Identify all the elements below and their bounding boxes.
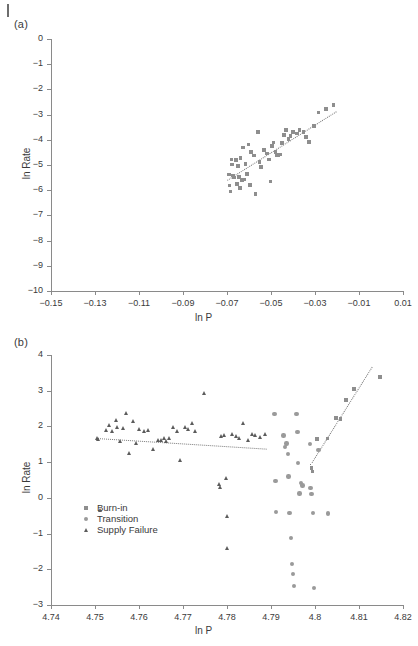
data-point-square — [315, 437, 319, 441]
y-tick-label: −2 — [11, 83, 43, 93]
data-point-triangle — [107, 423, 111, 427]
data-point-triangle — [258, 435, 262, 439]
data-point-circle — [284, 441, 288, 445]
data-point-square — [304, 135, 308, 139]
y-tick-label: −2 — [11, 563, 43, 573]
y-tick-undefined — [47, 64, 51, 65]
legend-marker-square-icon — [84, 506, 88, 510]
data-point-square — [334, 416, 338, 420]
data-point-triangle — [110, 429, 114, 433]
x-tick-label: −0.01 — [337, 298, 381, 308]
data-point-triangle — [146, 428, 150, 432]
legend-label: Transition — [97, 513, 138, 524]
x-tick — [227, 605, 228, 609]
y-tick-undefined — [47, 89, 51, 90]
data-point-square — [311, 470, 315, 474]
data-point-square — [302, 130, 306, 134]
data-point-square — [230, 163, 234, 167]
data-point-square — [230, 158, 234, 162]
plot-area-a — [51, 39, 403, 291]
data-point-square — [258, 160, 262, 164]
data-point-square — [332, 103, 336, 107]
data-point-square — [278, 153, 282, 157]
data-point-square — [241, 146, 245, 150]
data-point-square — [267, 158, 271, 162]
panel-b: (b) ln Rate ln P Burn-inTransitionSupply… — [0, 330, 418, 646]
data-point-square — [317, 111, 321, 115]
y-tick-undefined — [47, 569, 51, 570]
y-tick-undefined — [47, 426, 51, 427]
data-point-triangle — [104, 428, 108, 432]
data-point-triangle — [218, 485, 222, 489]
x-axis-title-b: ln P — [195, 625, 212, 636]
data-point-triangle — [186, 427, 190, 431]
data-point-square — [280, 141, 284, 145]
data-point-square — [282, 133, 286, 137]
x-tick — [227, 291, 228, 295]
data-point-square — [238, 186, 242, 190]
data-point-square — [232, 176, 236, 180]
data-point-square — [236, 164, 240, 168]
data-point-triangle — [121, 426, 125, 430]
x-axis-title-a: ln P — [195, 312, 212, 323]
y-tick-undefined — [47, 241, 51, 242]
y-tick-undefined — [47, 39, 51, 40]
data-point-triangle — [202, 391, 206, 395]
y-tick-label: 0 — [11, 492, 43, 502]
data-point-triangle — [167, 436, 171, 440]
data-point-triangle — [241, 421, 245, 425]
y-tick-undefined — [47, 355, 51, 356]
data-point-triangle — [263, 432, 267, 436]
y-tick-label: −3 — [11, 599, 43, 609]
y-tick-label: −9 — [11, 260, 43, 270]
y-tick-label: −6 — [11, 184, 43, 194]
x-tick-label: −0.03 — [293, 298, 337, 308]
y-tick-label: −1 — [11, 528, 43, 538]
data-point-triangle — [190, 421, 194, 425]
y-tick-undefined — [47, 266, 51, 267]
data-point-circle — [316, 448, 320, 452]
y-tick-label: −1 — [11, 58, 43, 68]
data-point-square — [312, 124, 316, 128]
y-tick-label: −8 — [11, 235, 43, 245]
x-tick — [359, 291, 360, 295]
data-point-triangle — [115, 425, 119, 429]
y-tick-label: −5 — [11, 159, 43, 169]
data-point-triangle — [224, 476, 228, 480]
x-tick-label: 4.82 — [381, 612, 418, 622]
data-point-square — [228, 184, 232, 188]
x-tick-label: −0.11 — [117, 298, 161, 308]
x-tick-label: 4.78 — [205, 612, 249, 622]
data-point-square — [307, 140, 311, 144]
data-point-triangle — [127, 451, 131, 455]
y-tick-undefined — [47, 165, 51, 166]
data-point-circle — [289, 536, 293, 540]
x-tick — [95, 605, 96, 609]
panel-a-label: (a) — [14, 18, 28, 30]
data-point-circle — [311, 511, 315, 515]
data-point-triangle — [246, 438, 250, 442]
data-point-circle — [308, 486, 312, 490]
data-point-circle — [287, 511, 291, 515]
legend-label: Supply Failure — [97, 524, 158, 535]
y-tick-undefined — [47, 534, 51, 535]
data-point-square — [244, 162, 248, 166]
x-tick-label: −0.09 — [161, 298, 205, 308]
data-point-circle — [273, 479, 277, 483]
data-point-triangle — [193, 429, 197, 433]
panel-b-label: (b) — [14, 336, 28, 348]
y-tick-label: 4 — [11, 349, 43, 359]
data-point-square — [234, 158, 238, 162]
data-point-circle — [272, 412, 276, 416]
x-tick — [359, 605, 360, 609]
y-tick-undefined — [47, 140, 51, 141]
data-point-triangle — [142, 429, 146, 433]
y-tick-label: 0 — [11, 33, 43, 43]
data-point-square — [289, 134, 293, 138]
data-point-square — [245, 172, 249, 176]
data-point-triangle — [124, 411, 128, 415]
x-tick-label: 4.79 — [249, 612, 293, 622]
x-tick — [403, 291, 404, 295]
data-point-triangle — [222, 433, 226, 437]
data-point-triangle — [134, 441, 138, 445]
